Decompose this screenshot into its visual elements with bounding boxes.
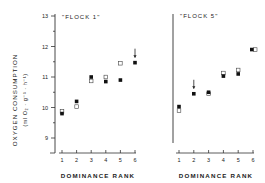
x-tick-label: 1 [60,157,63,163]
filled-square-marker [60,112,64,116]
filled-square-marker [89,75,93,79]
x-tick-label: 6 [133,157,136,163]
flock-5-axes: 123456 [173,14,257,163]
x-tick-label: 5 [237,157,240,163]
open-square-marker [177,109,181,113]
open-square-marker [75,105,79,109]
chart-figure: 123456910111213 123456 OXYGEN CONSUMPTIO… [0,0,265,183]
x-tick-label: 4 [222,157,225,163]
x-tick-label: 3 [207,157,210,163]
arrow-head-icon [133,55,136,58]
x-tick-label: 3 [90,157,93,163]
y-tick-label: 12 [42,44,48,50]
x-tick-label: 6 [251,157,254,163]
flock-1-axes: 123456910111213 [42,13,137,163]
x-tick-label: 4 [104,157,107,163]
filled-square-marker [119,78,123,82]
filled-square-marker [207,90,211,94]
y-tick-label: 9 [45,135,48,141]
filled-square-marker [222,74,226,78]
x-axis-label-flock-1: DOMINANCE RANK [61,172,136,179]
y-tick-label: 13 [42,13,48,19]
filled-square-marker [236,72,240,76]
open-square-marker [236,68,240,72]
filled-square-marker [250,48,254,52]
filled-square-marker [192,92,196,96]
y-axis-label: OXYGEN CONSUMPTION (ml O₂ · g⁻¹ · h⁻¹) [11,54,28,147]
filled-square-marker [75,100,79,104]
x-tick-label: 5 [119,157,122,163]
x-tick-label: 2 [192,157,195,163]
panel-title-flock-5: "FLOCK 5" [180,13,218,19]
filled-square-marker [133,61,137,65]
filled-square-marker [177,105,181,109]
open-square-marker [253,48,257,52]
open-square-marker [119,61,123,65]
y-tick-label: 11 [42,74,48,80]
arrow-head-icon [192,86,195,89]
x-axis-label-flock-5: DOMINANCE RANK [179,172,254,179]
x-tick-label: 2 [75,157,78,163]
x-tick-label: 1 [177,157,180,163]
y-axis-label-line2: (ml O₂ · g⁻¹ · h⁻¹) [22,73,28,126]
y-tick-label: 10 [42,105,48,111]
open-square-marker [104,75,108,79]
y-axis-label-line1: OXYGEN CONSUMPTION [11,54,18,147]
filled-square-marker [104,80,108,84]
open-square-marker [89,79,93,83]
panel-title-flock-1: "FLOCK 1" [62,14,100,20]
